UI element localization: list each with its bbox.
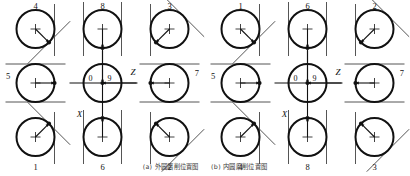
contact-point-dot — [359, 121, 363, 125]
contact-point-dot — [353, 81, 357, 85]
axis-label-x: X — [76, 109, 83, 119]
position-number-label: 5 — [6, 71, 10, 81]
cell-a-r2c2: 09ZX — [70, 50, 138, 119]
contact-point-dot — [47, 121, 51, 125]
origin-right-label: 9 — [313, 74, 317, 83]
contact-point-dot — [154, 40, 158, 44]
position-number-label: 7 — [400, 68, 404, 78]
origin-right-label: 9 — [108, 74, 112, 83]
position-number-label: 1 — [238, 1, 242, 11]
cell-a-r2c1: 5 — [6, 64, 66, 102]
position-number-label: 6 — [305, 1, 309, 11]
caption-part-a: (a) 外圆磨削位置图 — [143, 163, 199, 170]
contact-point-dot — [305, 46, 309, 50]
diagram-group-a: 483509ZX7162 — [2, 0, 205, 162]
contact-point-dot — [252, 40, 256, 44]
origin-left-label: 0 — [294, 74, 298, 83]
origin-dot — [305, 81, 309, 85]
cell-b-r2c2: 09ZX — [275, 50, 343, 119]
cell-a-r1c1: 4 — [17, 1, 71, 64]
contact-point-dot — [148, 81, 152, 85]
cell-b-r2c1: 5 — [211, 64, 271, 102]
axis-label-z: Z — [336, 67, 342, 77]
contact-point-dot — [305, 116, 309, 120]
cell-a-r2c3: 7 — [140, 64, 200, 102]
position-number-label: 3 — [167, 1, 171, 11]
axis-label-x: X — [281, 109, 288, 119]
position-number-label: 8 — [100, 1, 104, 11]
contact-point-dot — [154, 121, 158, 125]
position-number-label: 5 — [211, 71, 215, 81]
contact-point-dot — [252, 121, 256, 125]
origin-left-label: 0 — [89, 74, 93, 83]
contact-point-dot — [52, 81, 56, 85]
position-number-label: 2 — [372, 1, 376, 11]
cell-b-r2c3: 7 — [345, 64, 405, 102]
position-number-label: 7 — [195, 68, 199, 78]
cell-b-r1c3: 2 — [356, 0, 410, 56]
cell-a-r1c2: 8 — [84, 1, 122, 56]
grinding-wheel-position-figure: 483509ZX7162 162509ZX7483 (a) 外圆磨削位置图 (b… — [0, 0, 410, 176]
diagram-group-b: 162509ZX7483 — [207, 0, 410, 162]
figure-caption: (a) 外圆磨削位置图 (b) 内圆磨削位置图 — [0, 162, 410, 171]
origin-dot — [100, 81, 104, 85]
cell-b-r1c1: 1 — [222, 1, 276, 64]
group-b-canvas: 162509ZX7483 — [207, 0, 410, 162]
contact-point-dot — [100, 46, 104, 50]
cell-b-r1c2: 6 — [289, 1, 327, 56]
cell-a-r1c3: 3 — [151, 0, 205, 56]
contact-point-dot — [47, 40, 51, 44]
contact-point-dot — [257, 81, 261, 85]
caption-part-b: (b) 内圆磨削位置图 — [201, 163, 267, 170]
axis-label-z: Z — [131, 67, 137, 77]
contact-point-dot — [359, 40, 363, 44]
contact-point-dot — [100, 116, 104, 120]
group-a-canvas: 483509ZX7162 — [2, 0, 205, 162]
